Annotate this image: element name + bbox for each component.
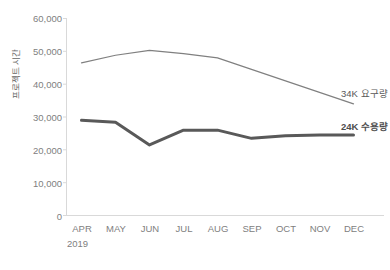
- line-chart: 프로젝트 시간 60,000 50,000 40,000 30,000 20,0…: [0, 0, 390, 270]
- series-label-demand: 34K 요구량: [341, 86, 388, 100]
- series-line-capacity: [82, 120, 354, 145]
- x-axis-year-label: 2019: [67, 238, 88, 249]
- series-label-capacity: 24K 수용량: [341, 119, 388, 133]
- y-tick-marks: [63, 19, 67, 216]
- figure-caption: [0, 261, 390, 270]
- x-tick-dec: DEC: [334, 223, 374, 234]
- series-line-demand: [82, 50, 354, 104]
